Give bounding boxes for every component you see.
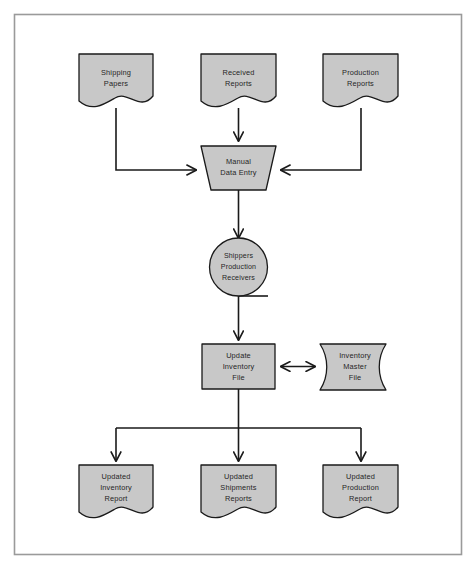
node-label-line2: Production	[221, 263, 256, 271]
node-label-line3: File	[349, 373, 362, 382]
node-label-line3: Receivers	[222, 274, 255, 282]
node-label-line1: Received	[222, 68, 254, 77]
node-label-line1: Manual	[226, 157, 251, 166]
node-label-line1: Inventory	[339, 351, 371, 360]
node-label-line1: Shippers	[224, 252, 254, 260]
node-label-line2: Reports	[347, 79, 374, 88]
node-label-line2: Inventory	[100, 483, 132, 492]
node-manual-data-entry[interactable]: Manual Data Entry	[201, 146, 276, 190]
node-label-line3: Report	[349, 494, 372, 503]
node-label-line1: Shipping	[101, 68, 131, 77]
node-label-line1: Update	[226, 351, 251, 360]
node-label-line2: Papers	[104, 79, 128, 88]
node-label-line3: Reports	[225, 494, 252, 503]
node-update-inventory-file[interactable]: Update Inventory File	[202, 344, 275, 389]
node-label-line2: Master	[343, 362, 367, 371]
node-label-line1: Production	[342, 68, 379, 77]
node-label-line2: Shipments	[220, 483, 256, 492]
node-label-line2: Production	[342, 483, 379, 492]
node-label-line2: Inventory	[223, 362, 255, 371]
node-label-line2: Data Entry	[220, 168, 257, 177]
flowchart-diagram: Shipping Papers Received Reports Product…	[0, 0, 471, 567]
node-label-line1: Updated	[224, 472, 253, 481]
flowchart-canvas: Shipping Papers Received Reports Product…	[0, 0, 471, 567]
node-label-line1: Updated	[102, 472, 131, 481]
node-shippers-production-receivers[interactable]: Shippers Production Receivers	[210, 238, 268, 296]
node-label-line1: Updated	[346, 472, 375, 481]
node-label-line3: File	[232, 373, 245, 382]
node-label-line2: Reports	[225, 79, 252, 88]
node-label-line3: Report	[104, 494, 127, 503]
node-inventory-master-file[interactable]: Inventory Master File	[320, 344, 386, 390]
